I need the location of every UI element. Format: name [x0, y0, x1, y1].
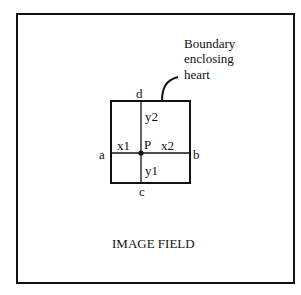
image-field-label: IMAGE FIELD	[112, 236, 195, 251]
label-c: c	[139, 184, 145, 199]
callout-line-3: heart	[184, 67, 210, 82]
callout-line-2: enclosing	[184, 51, 234, 66]
label-y1: y1	[145, 163, 158, 178]
callout-line-1: Boundary	[184, 36, 236, 51]
label-x2: x2	[161, 138, 174, 153]
label-b: b	[193, 147, 200, 162]
diagram-canvas: Boundary enclosing heart d c a b y2 y1 x…	[0, 0, 301, 295]
label-a: a	[99, 147, 105, 162]
label-p: P	[144, 137, 151, 152]
point-p-marker	[138, 150, 143, 155]
callout-leader-curve	[162, 77, 178, 101]
label-y2: y2	[145, 109, 158, 124]
label-x1: x1	[117, 138, 130, 153]
label-d: d	[136, 86, 143, 101]
